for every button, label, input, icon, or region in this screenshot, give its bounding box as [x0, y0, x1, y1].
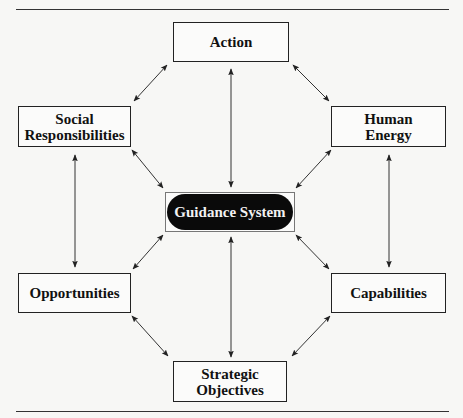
node-capabilities: Capabilities	[331, 273, 446, 313]
arrow-opportunities-strategic	[132, 316, 168, 356]
guidance-system-pill: Guidance System	[167, 194, 293, 230]
arrow-guidance-opportunities	[133, 235, 163, 269]
node-opportunities-label: Opportunities	[29, 285, 119, 301]
node-strategic-line2: Objectives	[196, 382, 263, 398]
node-social-line2: Responsibilities	[24, 127, 124, 143]
arrow-social-guidance	[132, 150, 163, 188]
node-guidance-label: Guidance System	[174, 204, 285, 221]
node-human-energy: Human Energy	[331, 106, 446, 147]
node-action: Action	[173, 22, 289, 62]
node-strategic-line1: Strategic	[201, 366, 258, 382]
arrow-human-guidance	[296, 150, 331, 188]
node-social-line1: Social	[55, 111, 93, 127]
arrow-capabilities-strategic	[292, 316, 330, 356]
node-strategic-objectives: Strategic Objectives	[173, 361, 287, 402]
node-opportunities: Opportunities	[18, 273, 131, 313]
node-human-line2: Energy	[365, 127, 412, 143]
arrow-guidance-capabilities	[296, 235, 329, 269]
node-social-responsibilities: Social Responsibilities	[18, 106, 131, 147]
node-guidance-system: Guidance System	[165, 192, 295, 232]
node-action-label: Action	[210, 34, 253, 50]
node-capabilities-label: Capabilities	[350, 285, 427, 301]
arrow-action-social	[134, 65, 167, 101]
arrow-action-human	[293, 65, 329, 101]
node-human-line1: Human	[364, 111, 412, 127]
